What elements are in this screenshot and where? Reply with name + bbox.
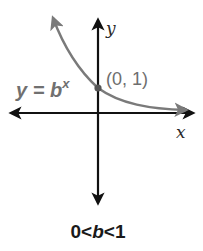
condition-right: <1 [104,221,126,242]
exponential-curve [53,18,186,110]
graph-canvas [0,0,203,251]
exponential-graph-figure: y x (0, 1) y = bx 0<b<1 [0,0,203,251]
condition-left: 0< [71,221,93,242]
condition-variable: b [92,221,104,242]
condition-label: 0<b<1 [0,222,196,241]
equation-label: y = bx [16,80,69,100]
x-axis-label: x [176,124,186,141]
equation-exponent: x [62,76,69,91]
y-axis-label: y [106,20,116,37]
point-label: (0, 1) [106,70,148,88]
equation-base: y = b [16,79,62,101]
y-intercept-point [94,84,101,91]
